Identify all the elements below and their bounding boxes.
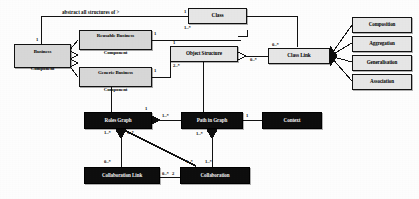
node-label: Context <box>284 118 301 124</box>
multiplicity-collablink-right: 0..* <box>162 171 169 176</box>
multiplicity-classlink-top: 0..* <box>272 42 279 47</box>
multiplicity-pathgraph-left: 1..* <box>162 113 169 118</box>
multiplicity-class-bottom-left: 1..* <box>184 25 191 30</box>
multiplicity-rolesgraph-right: 1 <box>145 106 147 111</box>
node-class[interactable]: Class <box>188 8 247 24</box>
node-generic-business-component[interactable]: Generic Business Component <box>79 67 152 87</box>
multiplicity-collaboration-topleft: 1..* <box>186 159 193 164</box>
multiplicity-collaboration-topright: 1..* <box>205 159 212 164</box>
multiplicity-collablink-top: 0..* <box>104 159 111 164</box>
node-reusable-business-component[interactable]: Reusable Business Component <box>79 30 152 50</box>
node-object-structure[interactable]: Object Structure <box>170 46 238 62</box>
multiplicity-class-top-left: 1 <box>184 9 186 14</box>
node-class-link[interactable]: Class Link <box>268 48 330 64</box>
multiplicity-objectstructure-top: 1 <box>173 40 175 45</box>
node-label: Roles Graph <box>104 118 131 124</box>
edge-label-abstract-all-structures: abstract all structures of > <box>62 9 119 15</box>
node-label-line1: Generic Business <box>98 70 133 75</box>
node-generalisation[interactable]: Generalisation <box>352 55 412 71</box>
multiplicity-business-top: 1 <box>36 37 38 42</box>
node-label: Association <box>370 79 394 85</box>
node-label: Collaboration <box>201 173 230 179</box>
node-label: Generalisation <box>367 60 398 66</box>
uml-class-diagram: Business Component Reusable Business Com… <box>0 0 419 199</box>
node-roles-graph[interactable]: Roles Graph <box>84 112 152 129</box>
node-label-line2: Component <box>104 87 128 92</box>
node-business-component[interactable]: Business Component <box>14 44 71 68</box>
multiplicity-generic-right: 1 <box>154 68 156 73</box>
node-composition[interactable]: Composition <box>352 17 412 33</box>
multiplicity-rolesgraph-br: 1..* <box>127 130 134 135</box>
node-label-line2: Component <box>31 66 55 71</box>
node-label: Collaboration Link <box>102 173 142 179</box>
edge-class-to-objectstructure <box>238 30 247 36</box>
node-label: Composition <box>369 22 396 28</box>
multiplicity-objectstructure-bottom: 2..* <box>173 63 180 68</box>
node-association[interactable]: Association <box>352 74 412 90</box>
multiplicity-rolesgraph-bl: 1..* <box>104 130 111 135</box>
node-context[interactable]: Context <box>262 112 322 129</box>
multiplicity-reusable-right: 1 <box>154 31 156 36</box>
node-label-line2: Component <box>104 50 128 55</box>
node-label: Aggregation <box>369 41 395 47</box>
multiplicity-pathgraph-right: 1 <box>246 113 248 118</box>
multiplicity-collaboration-left: 2 <box>172 171 174 176</box>
node-label: Path in Graph <box>197 118 228 124</box>
node-collaboration-link[interactable]: Collaboration Link <box>84 167 160 184</box>
node-collaboration[interactable]: Collaboration <box>180 167 250 184</box>
node-aggregation[interactable]: Aggregation <box>352 36 412 52</box>
node-label: Class Link <box>287 53 310 59</box>
multiplicity-classlink-left: 0..* <box>250 57 257 62</box>
node-path-in-graph[interactable]: Path in Graph <box>181 112 243 129</box>
node-label-line1: Reusable Business <box>97 33 134 38</box>
node-label: Object Structure <box>186 51 222 57</box>
multiplicity-pathgraph-bottom: 1..* <box>196 131 203 136</box>
node-label-line1: Business <box>34 49 52 54</box>
node-label: Class <box>212 13 224 19</box>
